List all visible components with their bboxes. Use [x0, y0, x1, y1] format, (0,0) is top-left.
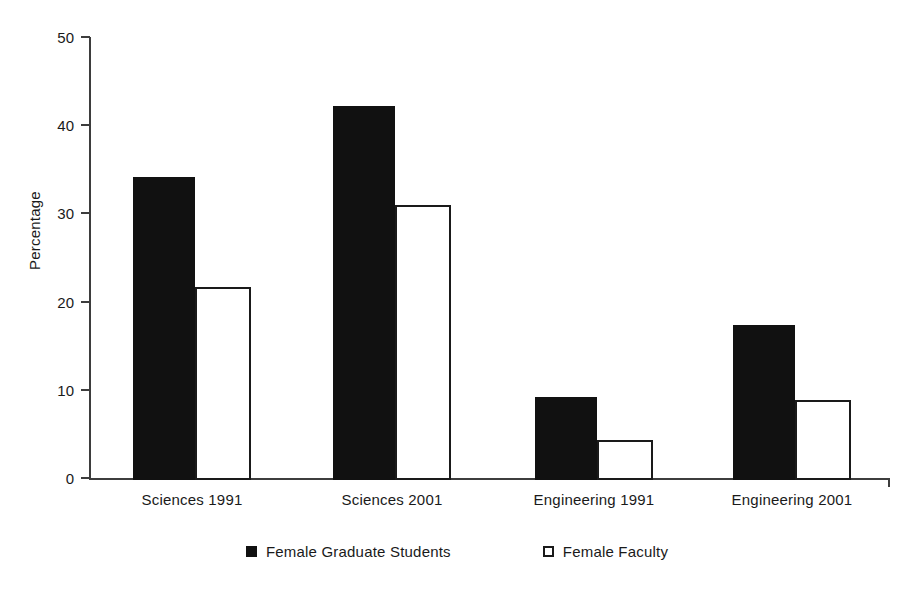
legend-item: Female Faculty	[543, 543, 668, 560]
x-axis-category-label: Engineering 2001	[732, 491, 853, 508]
bar-graduate-students	[535, 397, 597, 480]
bar-faculty	[195, 287, 251, 480]
chart-legend: Female Graduate StudentsFemale Faculty	[0, 543, 914, 560]
bar-faculty	[795, 400, 851, 480]
x-axis-category-label: Engineering 1991	[534, 491, 655, 508]
bar-faculty	[597, 440, 653, 480]
bar-chart: Percentage 50403020100 Sciences 1991Scie…	[0, 0, 914, 589]
bar-faculty	[395, 205, 451, 480]
legend-item: Female Graduate Students	[246, 543, 451, 560]
legend-item-label: Female Faculty	[563, 543, 668, 560]
x-axis-category-label: Sciences 2001	[341, 491, 442, 508]
legend-swatch-open-square-icon	[543, 546, 554, 557]
bar-graduate-students	[333, 106, 395, 480]
legend-swatch-filled-square-icon	[246, 546, 257, 557]
x-axis-category-label: Sciences 1991	[141, 491, 242, 508]
legend-item-label: Female Graduate Students	[266, 543, 451, 560]
bar-graduate-students	[733, 325, 795, 480]
bar-graduate-students	[133, 177, 195, 480]
